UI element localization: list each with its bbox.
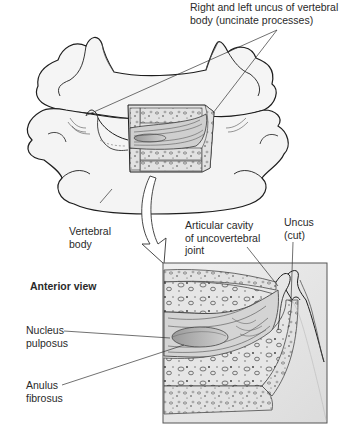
- label-vertebral-body: Vertebral body: [69, 225, 111, 250]
- cutaway-section: [128, 105, 214, 172]
- label-uncus-cut: Uncus (cut): [284, 216, 314, 241]
- label-anulus-fibrosus: Anulus fibrosus: [26, 379, 63, 404]
- leader-nucleus: [64, 331, 170, 338]
- nucleus-pulposus-shape: [172, 327, 228, 347]
- inset-magnified-joint: [163, 263, 327, 423]
- uncovertebral-joint-figure: Right and left uncus of vertebral body (…: [0, 0, 350, 435]
- label-nucleus-pulposus: Nucleus pulposus: [26, 324, 68, 349]
- label-uncus-pair: Right and left uncus of vertebral body (…: [190, 1, 338, 26]
- label-articular-cavity: Articular cavity of uncovertebral joint: [185, 219, 260, 257]
- view-label: Anterior view: [30, 280, 97, 293]
